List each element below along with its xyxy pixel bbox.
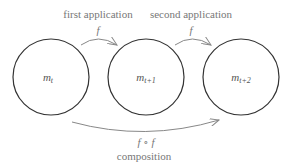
diagram-canvas: first application second application f f… bbox=[0, 0, 293, 166]
node-label: m bbox=[231, 71, 239, 83]
arrow-composition bbox=[72, 120, 219, 132]
node-subscript: t bbox=[51, 76, 54, 85]
svg-text:mt+2: mt+2 bbox=[231, 71, 251, 85]
node-subscript: t+2 bbox=[239, 76, 251, 85]
edge-caption-composition: composition bbox=[117, 150, 172, 162]
node-label: m bbox=[43, 71, 51, 83]
edge-caption-second: second application bbox=[150, 8, 233, 20]
arrow-second-application bbox=[175, 39, 211, 45]
node-m-t-plus-1: mt+1 bbox=[108, 39, 184, 115]
edge-caption-first: first application bbox=[63, 8, 133, 20]
edge-symbol-composition: f ∘ f bbox=[137, 136, 156, 148]
edge-symbol-second: f bbox=[189, 24, 194, 36]
node-subscript: t+1 bbox=[144, 76, 156, 85]
svg-text:mt+1: mt+1 bbox=[136, 71, 156, 85]
node-m-t: mt bbox=[13, 39, 89, 115]
node-m-t-plus-2: mt+2 bbox=[203, 39, 279, 115]
node-label: m bbox=[136, 71, 144, 83]
edge-symbol-first: f bbox=[96, 24, 101, 36]
svg-text:mt: mt bbox=[43, 71, 54, 85]
arrow-first-application bbox=[81, 39, 117, 45]
